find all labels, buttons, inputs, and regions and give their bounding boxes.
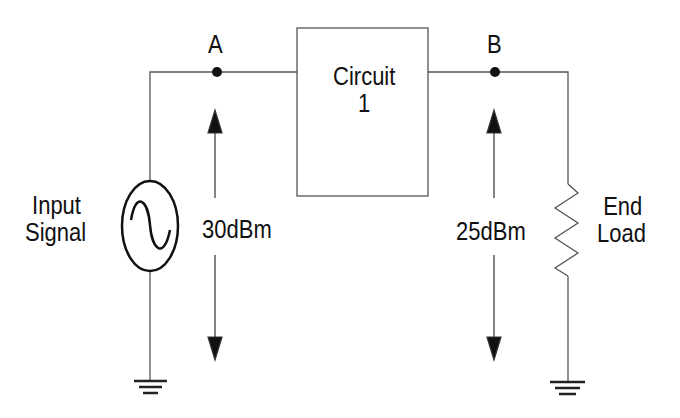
ground-icon-load bbox=[550, 382, 585, 394]
resistor-icon bbox=[555, 184, 578, 276]
circuit-block-number: 1 bbox=[318, 90, 410, 117]
input-signal-line2: Signal bbox=[25, 219, 101, 246]
node-b-dot bbox=[490, 67, 500, 77]
node-b-label: B bbox=[487, 31, 502, 58]
wire-source-to-a bbox=[150, 72, 297, 180]
node-a-label: A bbox=[208, 31, 223, 58]
end-load-line2: Load bbox=[597, 220, 646, 247]
ac-source-icon bbox=[122, 181, 178, 271]
input-signal-label: Input Signal bbox=[25, 192, 101, 246]
end-load-label: End Load bbox=[597, 193, 646, 247]
input-signal-line1: Input bbox=[25, 192, 101, 219]
circuit-block-label: Circuit 1 bbox=[318, 63, 410, 117]
node-a-dot bbox=[212, 67, 222, 77]
end-load-line1: End bbox=[597, 193, 646, 220]
ground-icon-source bbox=[134, 381, 167, 393]
circuit-block-name: Circuit bbox=[318, 63, 410, 90]
measurement-b-value: 25dBm bbox=[456, 218, 526, 245]
measurement-a-value: 30dBm bbox=[202, 216, 272, 243]
